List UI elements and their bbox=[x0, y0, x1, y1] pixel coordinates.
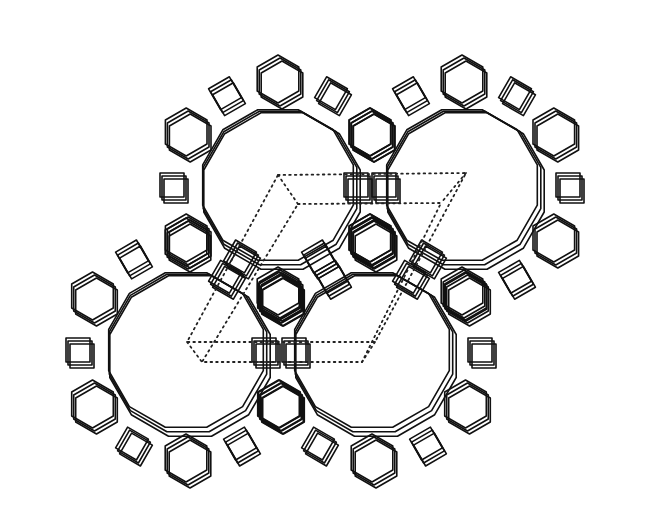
twelve-ring-channel-upper-left bbox=[203, 110, 354, 261]
twelve-ring-channel-upper-right bbox=[387, 110, 538, 261]
twelve-ring-channel-lower-left bbox=[109, 273, 264, 428]
unit-cell-edge bbox=[187, 342, 202, 362]
framework-drawing bbox=[0, 0, 645, 526]
framework-cages bbox=[66, 55, 584, 488]
zeolite-framework-diagram: Zeolite framework line drawing viewed al… bbox=[0, 0, 645, 526]
unit-cell-edge bbox=[362, 342, 375, 362]
twelve-ring-channel-lower-right bbox=[295, 273, 450, 428]
unit-cell-edge bbox=[441, 173, 466, 203]
unit-cell-edge bbox=[278, 175, 298, 204]
